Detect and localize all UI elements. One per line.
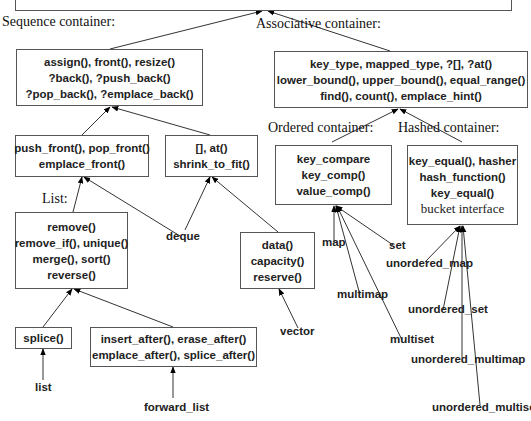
forward-list-operations-box: insert_after(), erase_after() emplace_af… xyxy=(90,327,257,367)
box-line: bucket interface xyxy=(421,201,504,217)
edge-frontops-to-sequence xyxy=(82,107,110,135)
box-line: shrink_to_fit() xyxy=(173,156,250,172)
leaf-multimap: multimap xyxy=(337,288,388,300)
edge-splice-to-listops xyxy=(43,289,72,327)
box-line: key_type, mapped_type, ?[], ?at() xyxy=(310,56,492,72)
box-line: merge(), sort() xyxy=(33,251,111,267)
leaf-unordered-set: unordered_set xyxy=(408,303,488,315)
box-line: find(), count(), emplace_hint() xyxy=(320,88,482,104)
hashed-container-box: key_equal(), hasher hash_function() key_… xyxy=(407,145,518,225)
random-access-box: [], at() shrink_to_fit() xyxy=(165,135,258,177)
leaf-list: list xyxy=(35,381,52,393)
box-line: splice() xyxy=(23,330,63,346)
leaf-unordered-map: unordered_map xyxy=(386,257,473,269)
heading-associative-container: Associative container: xyxy=(256,16,381,32)
box-line: remove() xyxy=(47,219,96,235)
container-base-box xyxy=(15,0,512,11)
edge-multimap-to-ordered xyxy=(336,206,360,295)
box-line: lower_bound(), upper_bound(), equal_rang… xyxy=(277,72,526,88)
edge-unorderedmultiset-to-hashed xyxy=(463,226,480,405)
box-line: key_equal(), hasher xyxy=(409,153,516,169)
box-line: emplace_front() xyxy=(39,156,125,172)
box-line: value_comp() xyxy=(296,183,370,199)
leaf-unordered-multimap: unordered_multimap xyxy=(411,353,525,365)
contiguous-container-box: data() capacity() reserve() xyxy=(240,232,315,289)
box-line: emplace_after(), splice_after() xyxy=(92,347,255,363)
box-line: key_comp() xyxy=(302,167,366,183)
box-line: hash_function() xyxy=(419,169,505,185)
heading-ordered-container: Ordered container: xyxy=(268,120,373,136)
box-line: ?back(), ?push_back() xyxy=(48,70,170,86)
sequence-container-box: assign(), front(), resize() ?back(), ?pu… xyxy=(16,49,203,106)
leaf-set: set xyxy=(389,239,406,251)
edge-listops-to-frontops xyxy=(73,177,82,212)
edge-sequence-to-top xyxy=(110,11,262,49)
box-line: push_front(), pop_front() xyxy=(14,140,149,156)
leaf-multiset: multiset xyxy=(390,333,434,345)
box-line: assign(), front(), resize() xyxy=(44,54,175,70)
box-line: reverse() xyxy=(47,267,96,283)
heading-hashed-container: Hashed container: xyxy=(398,120,499,136)
box-line: remove_if(), unique() xyxy=(15,235,129,251)
box-line: reserve() xyxy=(253,269,302,285)
box-line: data() xyxy=(262,237,293,253)
leaf-vector: vector xyxy=(280,325,315,337)
edge-randomaccess-to-sequence xyxy=(112,107,210,135)
box-line: insert_after(), erase_after() xyxy=(101,331,247,347)
edge-vector-to-contiguous xyxy=(279,289,298,328)
leaf-deque: deque xyxy=(166,230,200,242)
leaf-map: map xyxy=(322,236,346,248)
box-line: [], at() xyxy=(196,140,228,156)
box-line: key_equal() xyxy=(431,185,494,201)
edge-multiset-to-ordered xyxy=(337,206,402,340)
container-hierarchy-diagram: Sequence container: Associative containe… xyxy=(0,0,531,421)
splice-box: splice() xyxy=(15,327,72,349)
box-line: key_compare xyxy=(297,151,371,167)
ordered-container-box: key_compare key_comp() value_comp() xyxy=(275,145,392,205)
associative-container-box: key_type, mapped_type, ?[], ?at() lower_… xyxy=(274,51,528,108)
edge-forwardlistops-to-listops xyxy=(74,289,173,327)
list-operations-box: remove() remove_if(), unique() merge(), … xyxy=(15,212,128,289)
heading-sequence-container: Sequence container: xyxy=(2,14,115,30)
heading-list: List: xyxy=(42,191,68,207)
front-operations-box: push_front(), pop_front() emplace_front(… xyxy=(15,135,149,177)
leaf-unordered-multiset: unordered_multiset xyxy=(432,401,531,413)
edge-contiguous-to-randomaccess xyxy=(212,177,278,232)
leaf-forward-list: forward_list xyxy=(144,401,209,413)
box-line: capacity() xyxy=(251,253,305,269)
edge-deque-to-randomaccess xyxy=(185,177,210,230)
box-line: ?pop_back(), ?emplace_back() xyxy=(25,86,193,102)
